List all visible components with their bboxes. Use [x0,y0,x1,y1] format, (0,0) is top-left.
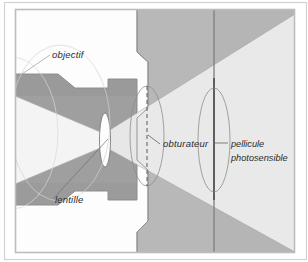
camera-cross-section-diagram: objectif lentille obturateur pellicule p… [0,0,308,262]
figure-canvas: objectif lentille obturateur pellicule p… [0,0,308,262]
scan-grain-overlay [15,9,295,253]
plate-contents: objectif lentille obturateur pellicule p… [0,9,295,253]
